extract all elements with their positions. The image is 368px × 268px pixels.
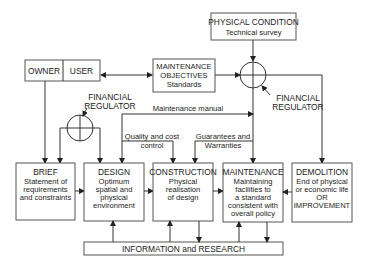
building-lifecycle-diagram: PHYSICAL CONDITION Technical survey FINA… [0,0,368,268]
maint-obj-l3: Standards [167,80,202,89]
physical-condition-box: PHYSICAL CONDITION Technical survey [208,13,298,40]
physical-condition-sub: Technical survey [225,28,281,37]
maintenance-manual-label: Maintenance manual [153,104,224,113]
design-title: DESIGN [98,167,130,177]
demolition-box: DEMOLITION End of physical or economic l… [292,163,352,222]
brief-box: BRIEF Statement of requirements and cons… [16,163,75,220]
quality-cost-l1: Quality and cost [125,132,180,141]
guarantees-l1: Guarantees and [196,132,250,141]
construction-l3: of design [168,193,199,202]
maintenance-box: MAINTENANCE Maintaining facilities to a … [223,163,284,222]
maintenance-objectives-box: MAINTENANCE OBJECTIVES Standards [153,59,215,92]
maint-obj-l1: MAINTENANCE [156,62,211,71]
owner-user-box: OWNER USER [25,60,100,81]
user-label: USER [70,66,93,76]
owner-label: OWNER [28,66,60,76]
fin-reg-left-l2: REGULATOR [84,101,135,111]
fin-reg-right-l2: REGULATOR [272,102,323,112]
maintenance-title: MAINTENANCE [223,167,284,177]
design-l4: environment [93,201,136,210]
design-box: DESIGN Optimum spatial and physical envi… [84,163,144,221]
maint-obj-l2: OBJECTIVES [160,71,207,80]
information-research-box: INFORMATION and RESEARCH [84,242,283,255]
maintenance-l5: overall policy [231,209,275,218]
guarantees-l2: Warranties [205,141,242,150]
demolition-title: DEMOLITION [296,167,348,177]
brief-l3: and constraints [20,193,72,202]
quality-cost-l2: control [141,141,164,150]
demolition-l4: IMPROVEMENT [294,201,351,210]
information-label: INFORMATION and RESEARCH [122,244,245,254]
brief-title: BRIEF [33,167,58,177]
physical-condition-title: PHYSICAL CONDITION [208,17,298,27]
construction-box: CONSTRUCTION Physical realisation of des… [149,163,216,221]
construction-title: CONSTRUCTION [149,167,216,177]
